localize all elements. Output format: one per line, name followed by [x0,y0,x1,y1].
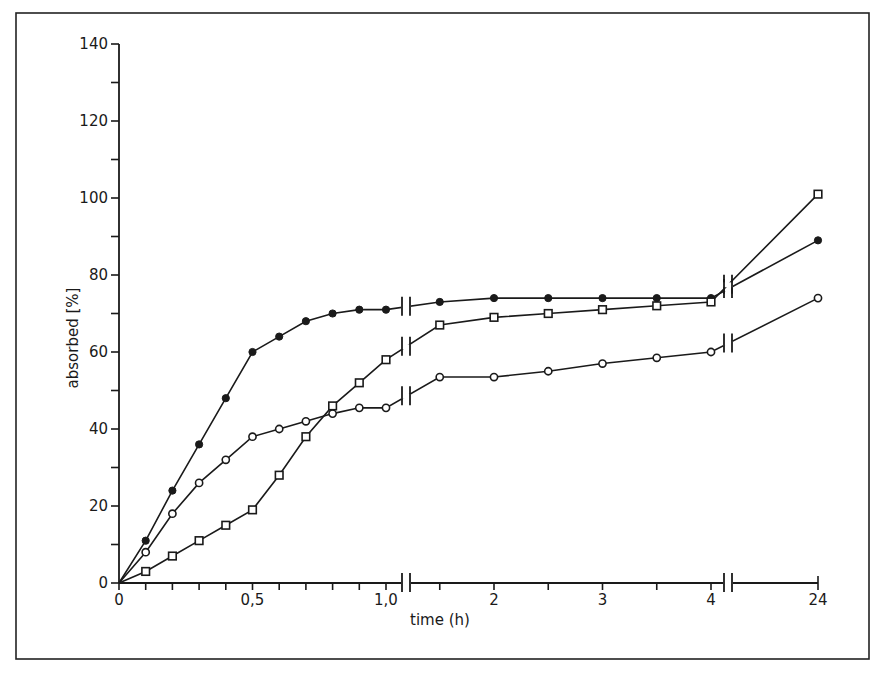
data-point [544,310,552,318]
y-tick-label: 20 [89,497,108,515]
data-point [490,295,497,302]
data-point [356,306,363,313]
data-point [545,295,552,302]
data-point [196,479,203,486]
data-point [382,404,389,411]
data-point [382,306,389,313]
data-point [599,306,607,314]
data-point [814,295,821,302]
x-tick-label: 1,0 [374,591,398,609]
data-point [814,190,822,198]
data-point [142,537,149,544]
data-point [329,410,336,417]
data-point [599,295,606,302]
data-point [302,433,310,441]
x-axis-label: time (h) [410,611,470,629]
chart-figure: 020406080100120140 00,51,023424 absorbed… [0,0,881,673]
y-tick-label: 80 [89,266,108,284]
data-point [142,549,149,556]
data-point [653,302,661,310]
data-point [249,506,257,514]
x-tick-label: 0 [114,591,124,609]
x-tick-label: 4 [706,591,716,609]
data-point [222,456,229,463]
data-point [302,318,309,325]
data-point [169,487,176,494]
data-point [436,321,444,329]
data-point [653,354,660,361]
data-point [356,404,363,411]
y-tick-label: 120 [79,112,108,130]
y-tick-label: 60 [89,343,108,361]
data-point [599,360,606,367]
y-tick-label: 0 [98,574,108,592]
data-point [222,395,229,402]
data-point [490,373,497,380]
x-tick-label: 3 [598,591,608,609]
data-point [169,510,176,517]
y-axis: 020406080100120140 [79,35,119,592]
data-point [653,295,660,302]
x-tick-label: 24 [808,591,827,609]
series-line-open-circle [119,298,818,583]
data-point [436,298,443,305]
data-point [275,471,283,479]
data-point [196,441,203,448]
data-point [249,433,256,440]
y-tick-label: 40 [89,420,108,438]
data-point [382,356,390,364]
data-point [249,348,256,355]
x-axis: 00,51,023424 [114,573,827,609]
data-point [276,333,283,340]
data-point [276,425,283,432]
data-point [707,348,714,355]
y-tick-label: 140 [79,35,108,53]
data-point [356,379,364,387]
series-line-filled-circle [119,240,818,583]
data-point [142,568,150,576]
x-tick-label: 2 [489,591,499,609]
data-point [490,314,498,322]
data-series [119,190,822,583]
data-point [329,402,337,410]
data-point [329,310,336,317]
y-axis-label: absorbed [%] [64,288,82,389]
data-point [545,368,552,375]
data-point [814,237,821,244]
x-tick-label: 0,5 [241,591,265,609]
data-point [222,521,230,529]
data-point [707,298,715,306]
data-point [169,552,177,560]
data-point [302,418,309,425]
data-point [436,373,443,380]
y-tick-label: 100 [79,189,108,207]
data-point [195,537,203,545]
